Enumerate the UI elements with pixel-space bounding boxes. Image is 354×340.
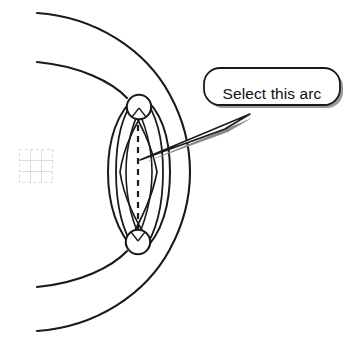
lens-outer-left-arc[interactable] — [108, 96, 137, 252]
lens-crossing-arc-b[interactable] — [120, 102, 150, 244]
top-cap-circle[interactable] — [127, 95, 151, 119]
callout-tail-shadow — [143, 118, 252, 163]
figure-canvas: Select this arc — [0, 0, 354, 340]
cad-diagram — [0, 0, 354, 340]
inner-sphere-silhouette-arc[interactable] — [37, 62, 127, 98]
dashed-grid-icon — [20, 150, 53, 183]
inner-sphere-silhouette-arc-lower[interactable] — [37, 251, 127, 287]
bottom-cap-circle[interactable] — [126, 230, 150, 254]
callout-bubble[interactable] — [204, 68, 340, 105]
